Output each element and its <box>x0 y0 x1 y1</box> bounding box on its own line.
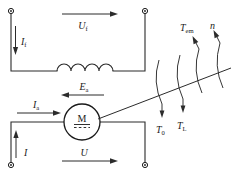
circuit-diagram-canvas: Uf If Ea Ia I U T0 TL Tem n M <box>0 0 232 179</box>
label-speed: n <box>210 20 215 31</box>
armature-wire-right <box>100 122 145 162</box>
torque-arc-t0 <box>156 60 164 118</box>
field-current-arrow <box>13 26 18 55</box>
label-load-torque: TL <box>177 120 187 132</box>
torque-arc-tem <box>193 36 203 93</box>
armature-circuit-group <box>8 92 147 167</box>
motor-shaft-line <box>98 68 231 119</box>
label-electromagnetic-torque: Tem <box>180 22 194 34</box>
terminal-voltage-arrow <box>62 158 118 163</box>
field-circuit-group <box>8 8 147 71</box>
terminal-armature-bottom-left[interactable] <box>8 162 13 167</box>
circuit-diagram: Uf If Ea Ia I U T0 TL Tem n M <box>0 0 232 179</box>
label-terminal-voltage: U <box>80 147 88 158</box>
label-field-voltage: Uf <box>78 20 88 32</box>
speed-arc-n <box>214 30 224 88</box>
line-current-arrow <box>13 130 18 158</box>
label-back-emf: Ea <box>78 81 88 93</box>
label-no-load-torque: T0 <box>156 124 166 136</box>
field-voltage-arrow <box>62 11 118 16</box>
field-winding-coil <box>57 64 113 71</box>
label-armature-current: Ia <box>32 99 39 111</box>
torque-arc-tl <box>177 55 185 113</box>
field-wire-right <box>113 14 145 71</box>
label-line-current: I <box>23 147 28 158</box>
label-field-current: If <box>20 36 27 48</box>
field-wire-left <box>11 14 57 71</box>
armature-wire-left <box>11 122 64 162</box>
label-motor-symbol: M <box>78 113 87 124</box>
terminal-field-top-right[interactable] <box>142 8 147 13</box>
labels-group: Uf If Ea Ia I U T0 TL Tem n M <box>20 20 215 158</box>
back-emf-arrow <box>61 92 104 97</box>
shaft-torque-group <box>98 30 231 119</box>
terminal-field-top-left[interactable] <box>8 8 13 13</box>
terminal-armature-bottom-right[interactable] <box>142 162 147 167</box>
